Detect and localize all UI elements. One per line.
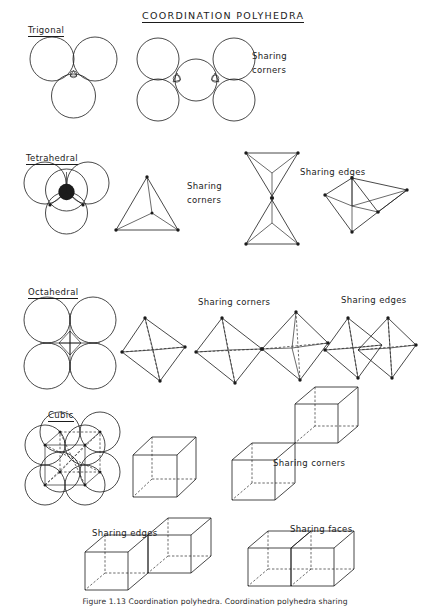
label-tetrahedral-sharing-corners-line1: Sharing — [187, 181, 222, 191]
cubic-inner-cube — [45, 432, 100, 485]
label-bottom-sharing-faces: Sharing faces — [290, 524, 352, 534]
trigonal-sphere-packing — [30, 37, 117, 118]
label-trigonal: Trigonal — [28, 25, 64, 37]
tetrahedra-sharing-corners — [244, 151, 299, 245]
label-tetrahedral-sharing-corners-line2: corners — [187, 195, 221, 205]
tetrahedral-sphere-packing — [24, 162, 109, 234]
label-cubic-sharing-corners: Sharing corners — [273, 458, 345, 468]
cubic-sphere-packing — [25, 412, 120, 505]
label-trigonal-sharing-line2: corners — [252, 65, 286, 75]
label-octahedral-sharing-edges: Sharing edges — [341, 295, 407, 305]
label-bottom-sharing-edges: Sharing edges — [92, 528, 158, 538]
label-tetrahedral: Tetrahedral — [26, 153, 78, 165]
trigonal-interstice-right-icon — [212, 73, 220, 82]
cube-single — [133, 437, 196, 497]
label-trigonal-sharing-line1: Sharing — [252, 51, 287, 61]
tetrahedron-single — [114, 175, 179, 231]
figure-title: COORDINATION POLYHEDRA — [142, 10, 304, 23]
figure-caption: Figure 1.13 Coordination polyhedra. Coor… — [82, 597, 347, 606]
trigonal-sharing-corners-packing — [137, 38, 255, 121]
cubes-sharing-corners — [232, 387, 358, 500]
label-cubic: Cubic — [48, 410, 74, 422]
octahedron-single — [120, 316, 186, 382]
octahedra-sharing-corners — [194, 310, 329, 384]
octahedra-sharing-edges — [323, 316, 417, 379]
label-octahedral-sharing-corners: Sharing corners — [198, 297, 270, 307]
label-tetrahedral-sharing-edges: Sharing edges — [300, 167, 366, 177]
trigonal-interstice-left-icon — [173, 73, 181, 82]
octahedral-sphere-packing — [24, 297, 116, 389]
label-octahedral: Octahedral — [28, 287, 78, 299]
tetrahedra-sharing-edges — [323, 176, 408, 234]
cubes-sharing-faces — [248, 531, 354, 586]
